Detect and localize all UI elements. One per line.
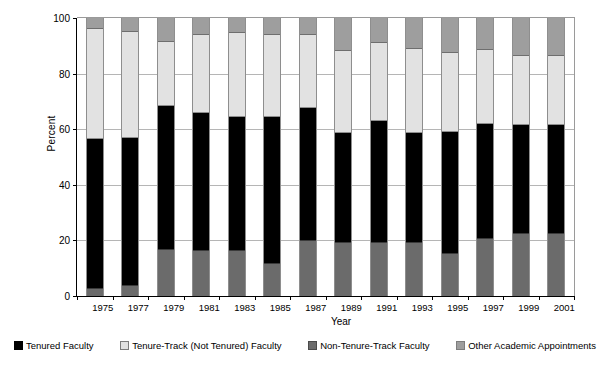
stacked-bar[interactable] (157, 18, 175, 296)
bar-segment[interactable] (513, 18, 529, 56)
bar-segment[interactable] (371, 121, 387, 242)
bar-segment[interactable] (442, 18, 458, 53)
x-axis-tick-mark (326, 296, 327, 300)
bar-segment[interactable] (335, 133, 351, 241)
bar-segment[interactable] (477, 238, 493, 296)
bar-segment[interactable] (158, 249, 174, 296)
bar-segment[interactable] (548, 125, 564, 233)
x-axis-tick-mark (468, 296, 469, 300)
bar-segment[interactable] (87, 18, 103, 29)
stacked-bar-chart-figure: Percent 020406080100 Year Tenured Facult… (0, 0, 606, 368)
x-axis-tick-label: 1983 (225, 302, 265, 313)
y-axis-tick-mark (73, 74, 77, 75)
gridline (77, 74, 574, 75)
bar-segment[interactable] (442, 253, 458, 296)
x-axis-tick-mark (77, 296, 78, 300)
bar-segment[interactable] (193, 113, 209, 251)
legend-item[interactable]: Non-Tenure-Track Faculty (308, 340, 429, 351)
stacked-bar[interactable] (299, 18, 317, 296)
bar-segment[interactable] (122, 138, 138, 285)
bar-segment[interactable] (122, 18, 138, 32)
bar-segment[interactable] (406, 18, 422, 49)
bar-segment[interactable] (406, 133, 422, 241)
stacked-bar[interactable] (192, 18, 210, 296)
bar-segment[interactable] (193, 35, 209, 113)
bar-segment[interactable] (406, 242, 422, 296)
bar-segment[interactable] (122, 285, 138, 296)
stacked-bar[interactable] (405, 18, 423, 296)
stacked-bar[interactable] (441, 18, 459, 296)
stacked-bar[interactable] (86, 18, 104, 296)
bar-segment[interactable] (122, 32, 138, 138)
bar-segment[interactable] (87, 139, 103, 288)
y-axis-tick-label: 40 (59, 179, 70, 190)
bar-segment[interactable] (513, 233, 529, 296)
bar-segment[interactable] (229, 33, 245, 116)
bar-segment[interactable] (158, 42, 174, 106)
plot-frame-top (77, 17, 574, 18)
stacked-bar[interactable] (263, 18, 281, 296)
bar-segment[interactable] (335, 51, 351, 133)
x-axis-tick-label: 1981 (189, 302, 229, 313)
bar-segment[interactable] (371, 43, 387, 121)
bar-segment[interactable] (158, 18, 174, 42)
stacked-bar[interactable] (228, 18, 246, 296)
bar-segment[interactable] (442, 132, 458, 253)
bar-segment[interactable] (513, 56, 529, 126)
bar-segment[interactable] (477, 124, 493, 238)
bar-segment[interactable] (229, 117, 245, 250)
bar-segment[interactable] (300, 240, 316, 296)
bar-segment[interactable] (371, 242, 387, 296)
x-axis-tick-label: 1979 (154, 302, 194, 313)
legend-label: Other Academic Appointments (468, 340, 596, 351)
x-axis-tick-mark (574, 296, 575, 300)
bar-segment[interactable] (513, 125, 529, 233)
bar-segment[interactable] (158, 106, 174, 249)
bar-segment[interactable] (300, 108, 316, 240)
x-axis-tick-label: 1997 (473, 302, 513, 313)
bar-segment[interactable] (548, 18, 564, 56)
bar-segment[interactable] (264, 263, 280, 296)
bar-segment[interactable] (442, 53, 458, 132)
chart-legend: Tenured FacultyTenure-Track (Not Tenured… (14, 340, 596, 351)
bar-segment[interactable] (193, 250, 209, 296)
legend-item[interactable]: Other Academic Appointments (456, 340, 596, 351)
legend-item[interactable]: Tenure-Track (Not Tenured) Faculty (120, 340, 281, 351)
bar-segment[interactable] (264, 18, 280, 35)
y-axis-tick-mark (73, 129, 77, 130)
bar-segment[interactable] (548, 56, 564, 126)
stacked-bar[interactable] (121, 18, 139, 296)
legend-label: Tenure-Track (Not Tenured) Faculty (132, 340, 281, 351)
stacked-bar[interactable] (512, 18, 530, 296)
stacked-bar[interactable] (370, 18, 388, 296)
y-axis-tick-mark (73, 240, 77, 241)
bar-segment[interactable] (548, 233, 564, 296)
x-axis-tick-label: 1985 (260, 302, 300, 313)
bar-segment[interactable] (87, 288, 103, 296)
bar-segment[interactable] (300, 18, 316, 35)
bar-segment[interactable] (477, 18, 493, 50)
bar-segment[interactable] (371, 18, 387, 43)
x-axis-tick-mark (290, 296, 291, 300)
x-axis-tick-mark (432, 296, 433, 300)
bar-segment[interactable] (335, 242, 351, 296)
plot-area: 020406080100 (76, 18, 574, 297)
bar-segment[interactable] (477, 50, 493, 124)
y-axis-tick-mark (73, 18, 77, 19)
bar-segment[interactable] (229, 18, 245, 33)
bar-segment[interactable] (264, 117, 280, 263)
bar-segment[interactable] (229, 250, 245, 296)
legend-item[interactable]: Tenured Faculty (14, 340, 94, 351)
bar-segment[interactable] (264, 35, 280, 117)
x-axis-tick-label: 1993 (402, 302, 442, 313)
x-axis-tick-label: 1975 (83, 302, 123, 313)
x-axis-tick-label: 1991 (367, 302, 407, 313)
bar-segment[interactable] (406, 49, 422, 134)
bar-segment[interactable] (300, 35, 316, 109)
stacked-bar[interactable] (476, 18, 494, 296)
bar-segment[interactable] (193, 18, 209, 35)
stacked-bar[interactable] (334, 18, 352, 296)
bar-segment[interactable] (335, 18, 351, 51)
bar-segment[interactable] (87, 29, 103, 139)
stacked-bar[interactable] (547, 18, 565, 296)
